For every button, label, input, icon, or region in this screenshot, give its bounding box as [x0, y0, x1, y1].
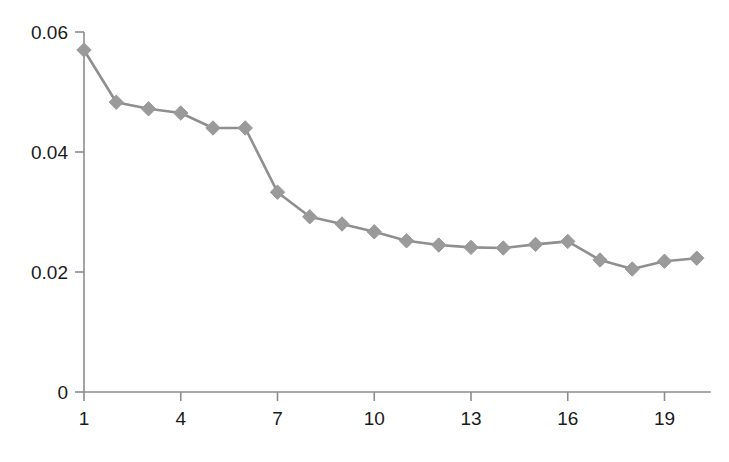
x-tick-label: 19: [654, 408, 675, 429]
data-point-marker: [561, 234, 575, 248]
data-point-marker: [77, 43, 91, 57]
data-point-marker: [141, 102, 155, 116]
data-series: [77, 43, 704, 276]
data-point-marker: [238, 121, 252, 135]
y-tick-label: 0.06: [31, 22, 68, 43]
x-axis: 14710131619: [79, 392, 711, 429]
data-point-marker: [399, 234, 413, 248]
y-axis: 00.020.040.06: [31, 22, 84, 403]
data-point-marker: [528, 237, 542, 251]
data-point-marker: [335, 217, 349, 231]
y-tick-label: 0.04: [31, 142, 68, 163]
data-point-marker: [690, 251, 704, 265]
y-tick-label: 0: [57, 382, 68, 403]
y-tick-label: 0.02: [31, 262, 68, 283]
data-point-marker: [496, 241, 510, 255]
data-point-marker: [109, 95, 123, 109]
chart-canvas: 00.020.040.06 14710131619: [0, 0, 729, 462]
data-point-marker: [464, 240, 478, 254]
data-point-marker: [206, 121, 220, 135]
data-point-marker: [657, 254, 671, 268]
x-tick-label: 16: [557, 408, 578, 429]
data-point-marker: [593, 253, 607, 267]
x-tick-label: 7: [272, 408, 283, 429]
x-tick-label: 1: [79, 408, 90, 429]
data-point-marker: [367, 225, 381, 239]
x-tick-label: 4: [175, 408, 186, 429]
x-tick-label: 10: [364, 408, 385, 429]
data-point-marker: [432, 238, 446, 252]
x-tick-label: 13: [460, 408, 481, 429]
data-point-marker: [625, 262, 639, 276]
series-line: [84, 50, 697, 269]
data-point-marker: [174, 106, 188, 120]
line-chart: 00.020.040.06 14710131619: [0, 0, 729, 462]
